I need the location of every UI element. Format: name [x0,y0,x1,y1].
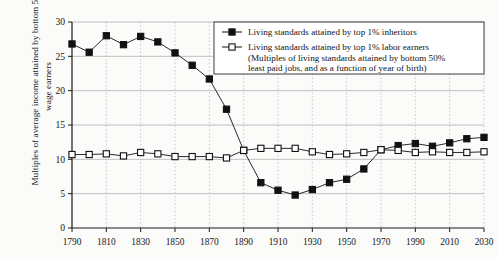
series-marker [103,33,109,39]
series-marker [412,149,418,155]
x-tick-label: 1810 [97,237,116,247]
legend-label: (Multiples of living standards attained … [248,53,446,63]
series-marker [155,39,161,45]
data-series [69,145,487,161]
series-marker [206,153,212,159]
y-tick-label: 15 [55,119,65,130]
y-tick-label: 25 [55,51,65,62]
series-marker [120,153,126,159]
series-marker [206,76,212,82]
chart-figure: Multiples of average income attained by … [0,0,499,257]
series-marker [138,33,144,39]
x-tick-label: 1870 [200,237,219,247]
legend-label: Living standards attained by top 1% inhe… [248,27,417,37]
series-marker [86,151,92,157]
series-marker [275,145,281,151]
series-marker [412,140,418,146]
series-marker [344,176,350,182]
series-marker [241,147,247,153]
series-marker [138,149,144,155]
series-marker [481,149,487,155]
series-marker [292,192,298,198]
legend-label: Living standards attained by top 1% labo… [248,42,430,52]
series-marker [189,62,195,68]
y-tick-label: 10 [55,154,65,165]
series-marker [326,180,332,186]
series-marker [395,147,401,153]
series-marker [309,149,315,155]
series-marker [103,151,109,157]
series-marker [326,151,332,157]
series-marker [447,149,453,155]
series-marker [189,153,195,159]
series-marker [344,151,350,157]
x-tick-label: 1850 [166,237,185,247]
series-marker [481,134,487,140]
chart-legend: Living standards attained by top 1% inhe… [214,22,484,74]
x-tick-label: 1930 [303,237,322,247]
y-tick-label: 5 [60,188,65,199]
series-marker [69,151,75,157]
y-axis-ticks: 051015202530 [55,16,72,233]
series-marker [361,149,367,155]
series-marker [292,145,298,151]
series-marker [378,147,384,153]
x-axis-ticks: 1790181018301850187018901910193019501970… [63,228,494,247]
series-marker [172,50,178,56]
series-marker [120,42,126,48]
series-marker [258,180,264,186]
series-marker [429,149,435,155]
chart-svg: 051015202530 179018101830185018701890191… [0,0,499,257]
series-marker [464,136,470,142]
x-tick-label: 1970 [372,237,391,247]
x-tick-label: 1890 [234,237,253,247]
x-tick-label: 2010 [440,237,459,247]
x-tick-label: 1910 [269,237,288,247]
series-marker [223,106,229,112]
legend-label: least paid jobs, and as a function of ye… [248,63,427,73]
x-tick-label: 1950 [337,237,356,247]
series-marker [258,145,264,151]
series-marker [447,140,453,146]
series-marker [361,166,367,172]
y-tick-label: 30 [55,16,65,27]
x-tick-label: 1790 [63,237,82,247]
series-marker [309,186,315,192]
series-marker [223,155,229,161]
x-tick-label: 2030 [475,237,494,247]
series-marker [464,149,470,155]
series-marker [86,49,92,55]
series-marker [172,153,178,159]
x-tick-label: 1830 [131,237,150,247]
series-marker [155,151,161,157]
y-tick-label: 0 [60,222,65,233]
x-tick-label: 1990 [406,237,425,247]
y-tick-label: 20 [55,85,65,96]
series-marker [275,187,281,193]
series-marker [69,41,75,47]
